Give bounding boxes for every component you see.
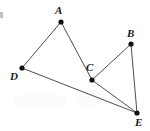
segment-DA: [22, 22, 61, 68]
vertex-label-a: A: [55, 5, 62, 16]
segment-CE: [92, 80, 137, 113]
segment-BE: [131, 44, 137, 113]
vertex-point-a: [58, 19, 63, 24]
vertex-point-d: [19, 65, 24, 70]
vertex-label-b: B: [127, 28, 134, 39]
vertex-point-b: [128, 41, 133, 46]
vertex-label-d: D: [10, 71, 18, 82]
segment-CB: [92, 44, 131, 80]
edges-group: [22, 22, 137, 113]
vertex-label-c: C: [86, 62, 93, 73]
geometry-canvas: [0, 0, 150, 131]
vertex-point-e: [134, 110, 139, 115]
geometry-figure: ABCDE: [0, 0, 150, 131]
vertex-point-c: [89, 77, 94, 82]
vertex-label-e: E: [135, 117, 142, 128]
segment-DE: [22, 68, 137, 113]
